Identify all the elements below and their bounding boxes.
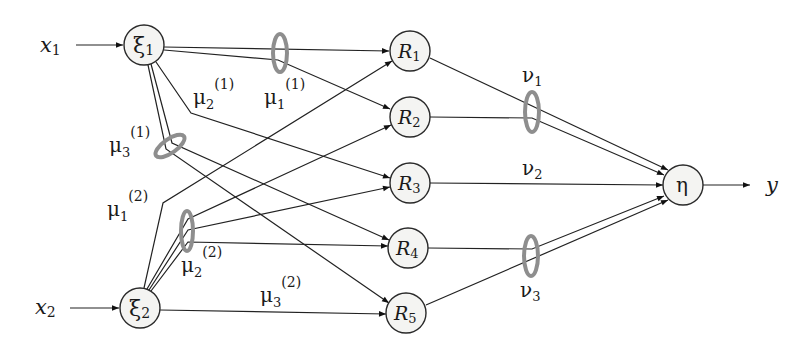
ring-nu3 bbox=[524, 236, 538, 276]
node-R4: R4 bbox=[388, 228, 428, 268]
fuzzy-neural-network-diagram: ξ1 ξ2 R1 R2 R3 R4 R5 η x1 x2 y μ1(1) μ2(… bbox=[0, 0, 808, 347]
node-R2: R2 bbox=[390, 97, 430, 137]
label-mu3-2: μ3(2) bbox=[260, 274, 301, 310]
label-x2: x2 bbox=[35, 295, 56, 320]
node-eta: η bbox=[663, 165, 703, 205]
node-R3: R3 bbox=[390, 163, 430, 203]
node-R5: R5 bbox=[386, 293, 426, 333]
ring-nu1 bbox=[525, 92, 539, 132]
edge-R1-eta bbox=[430, 58, 668, 170]
label-nu2: ν2 bbox=[522, 156, 542, 182]
label-nu1: ν1 bbox=[522, 63, 542, 89]
edge-xi2-R5 bbox=[160, 310, 386, 314]
label-mu1-1: μ1(1) bbox=[264, 76, 305, 112]
label-nu3: ν3 bbox=[520, 278, 540, 304]
label-mu3-1: μ3(1) bbox=[109, 124, 150, 160]
edge-xi1-R1 bbox=[164, 47, 389, 51]
label-mu1-2: μ1(2) bbox=[107, 188, 148, 224]
node-xi1: ξ1 bbox=[124, 25, 164, 65]
ring-mu1-1 bbox=[273, 34, 287, 72]
edge-R4-eta bbox=[428, 196, 664, 249]
edge-xi1-R3 bbox=[156, 62, 390, 178]
node-R1: R1 bbox=[390, 31, 430, 71]
edge-R3-eta bbox=[430, 183, 663, 185]
edge-R5-eta bbox=[426, 200, 668, 305]
svg-text:η: η bbox=[676, 173, 688, 197]
label-x1: x1 bbox=[40, 33, 61, 58]
edge-R2-eta bbox=[430, 117, 664, 175]
label-y: y bbox=[765, 173, 779, 197]
label-mu2-1: μ2(1) bbox=[193, 76, 234, 112]
node-xi2: ξ2 bbox=[120, 288, 160, 328]
